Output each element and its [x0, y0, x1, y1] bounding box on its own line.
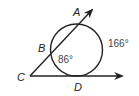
- label-C: C: [17, 71, 25, 83]
- geometry-diagram: A B C D 86° 166°: [0, 0, 139, 96]
- label-B: B: [38, 42, 45, 54]
- circle: [51, 24, 103, 76]
- label-A: A: [72, 6, 80, 18]
- arc-measure-166: 166°: [108, 38, 129, 49]
- label-D: D: [74, 81, 82, 93]
- arc-measure-86: 86°: [58, 54, 73, 65]
